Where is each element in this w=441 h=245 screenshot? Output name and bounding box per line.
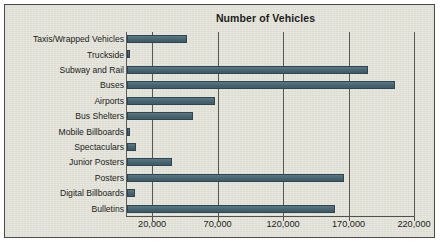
category-label: Bus Shelters	[6, 111, 124, 121]
bar-series	[126, 32, 414, 217]
category-label: Airports	[6, 96, 124, 106]
category-label: Mobile Billboards	[6, 127, 124, 137]
bar	[127, 66, 368, 74]
bar	[127, 189, 135, 197]
category-label: Subway and Rail	[6, 65, 124, 75]
bar-row	[126, 109, 414, 124]
bar-row	[126, 140, 414, 155]
category-label: Posters	[6, 173, 124, 183]
bar-row	[126, 125, 414, 140]
plot-area	[126, 32, 414, 217]
category-label: Digital Billboards	[6, 188, 124, 198]
chart-panel: Number of Vehicles Taxis/Wrapped Vehicle…	[4, 4, 435, 238]
chart-title: Number of Vehicles	[5, 12, 436, 24]
bar-row	[126, 78, 414, 93]
bar-row	[126, 63, 414, 78]
category-label: Junior Posters	[6, 157, 124, 167]
x-axis-tick-labels: 20,00070,000120,000170,000220,000	[126, 219, 426, 237]
x-tick-label: 220,000	[397, 219, 430, 229]
bar	[127, 97, 215, 105]
bar	[127, 205, 335, 213]
bar-row	[126, 94, 414, 109]
category-label: Spectaculars	[6, 142, 124, 152]
category-label: Buses	[6, 80, 124, 90]
x-tick-label: 120,000	[266, 219, 299, 229]
bar	[127, 50, 130, 58]
bar-row	[126, 171, 414, 186]
category-axis-labels: Taxis/Wrapped VehiclesTrucksideSubway an…	[5, 32, 124, 217]
x-tick-label: 20,000	[138, 219, 166, 229]
screenshot-root: Number of Vehicles Taxis/Wrapped Vehicle…	[0, 0, 441, 245]
bar-row	[126, 32, 414, 47]
bar-row	[126, 186, 414, 201]
bar	[127, 112, 193, 120]
x-tick-label: 170,000	[332, 219, 365, 229]
bar-row	[126, 202, 414, 217]
x-tick-label: 70,000	[204, 219, 232, 229]
gridline-220000	[414, 32, 415, 217]
category-label: Bulletins	[6, 204, 124, 214]
bar	[127, 174, 344, 182]
bar-row	[126, 155, 414, 170]
bar-row	[126, 47, 414, 62]
category-label: Taxis/Wrapped Vehicles	[6, 34, 124, 44]
bar	[127, 35, 187, 43]
bar	[127, 81, 395, 89]
bar	[127, 158, 172, 166]
bar	[127, 128, 130, 136]
bar	[127, 143, 136, 151]
category-label: Truckside	[6, 50, 124, 60]
